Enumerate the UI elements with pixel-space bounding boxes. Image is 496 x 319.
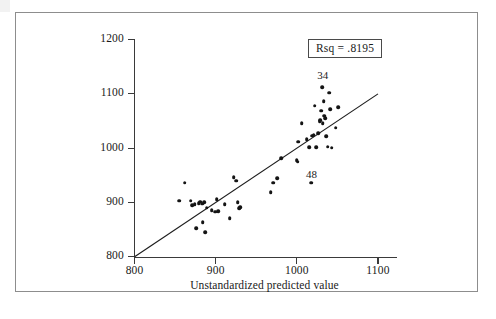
data-point — [193, 202, 197, 206]
data-point — [215, 197, 219, 201]
data-point — [203, 230, 207, 234]
x-axis-title-text: Unstandardized predicted value — [190, 279, 339, 291]
data-point — [319, 109, 323, 113]
data-point — [296, 160, 300, 164]
data-point — [183, 181, 187, 185]
point-label: 34 — [317, 69, 328, 81]
data-point — [321, 121, 325, 125]
x-tick-label: 900 — [207, 264, 225, 276]
x-axis-title: Unstandardized predicted value — [16, 279, 479, 291]
data-point — [223, 202, 227, 206]
data-point — [216, 209, 220, 213]
y-tick — [128, 93, 135, 94]
data-point — [297, 140, 301, 144]
data-point — [334, 126, 338, 130]
data-point — [328, 107, 332, 111]
data-point — [269, 190, 273, 194]
y-tick-label: 1000 — [100, 141, 124, 153]
data-point — [228, 216, 232, 220]
y-tick — [128, 148, 135, 149]
x-tick — [296, 257, 297, 264]
y-tick-label: 800 — [106, 249, 124, 261]
data-point — [328, 91, 332, 95]
x-tick-label: 1000 — [285, 264, 309, 276]
data-point — [234, 179, 238, 183]
y-tick-label: 900 — [106, 195, 124, 207]
data-point — [320, 86, 324, 90]
data-point — [238, 206, 242, 210]
data-point — [330, 146, 334, 150]
plot-area: 800900100011001200 80090010001100 3448 R… — [16, 13, 479, 293]
data-point — [326, 145, 330, 149]
data-point — [313, 104, 317, 108]
data-point — [310, 181, 314, 185]
x-tick — [134, 257, 135, 264]
y-axis-line — [134, 40, 135, 258]
data-point — [177, 199, 181, 203]
scan-artifact — [0, 0, 10, 12]
x-axis-line — [134, 257, 397, 258]
data-point — [276, 176, 280, 180]
data-point — [236, 201, 240, 205]
x-tick — [215, 257, 216, 264]
data-point — [194, 227, 198, 231]
x-tick-label: 800 — [126, 264, 144, 276]
data-point — [322, 100, 326, 104]
data-point — [203, 201, 207, 205]
y-tick — [128, 39, 135, 40]
data-point — [316, 132, 320, 136]
rsq-label: Rsq = .8195 — [316, 42, 374, 54]
page-canvas: 800900100011001200 80090010001100 3448 R… — [0, 0, 496, 319]
data-point — [305, 137, 309, 141]
y-tick — [128, 202, 135, 203]
figure-frame: 800900100011001200 80090010001100 3448 R… — [15, 12, 478, 292]
data-point — [280, 157, 284, 161]
data-point — [315, 145, 319, 149]
data-point — [205, 206, 209, 210]
data-point — [189, 199, 193, 203]
y-tick-label: 1100 — [101, 86, 124, 98]
regression-line — [16, 13, 479, 293]
data-point — [323, 117, 327, 121]
data-point — [272, 181, 276, 185]
data-point — [324, 134, 328, 138]
data-point — [201, 220, 205, 224]
data-point — [307, 145, 311, 149]
data-point — [312, 133, 316, 137]
rsq-annotation-box: Rsq = .8195 — [308, 39, 382, 58]
data-point — [336, 106, 340, 110]
data-point — [300, 121, 304, 125]
point-label: 48 — [306, 168, 317, 180]
y-tick-label: 1200 — [100, 32, 124, 44]
x-tick — [377, 257, 378, 264]
x-tick-label: 1100 — [366, 264, 389, 276]
